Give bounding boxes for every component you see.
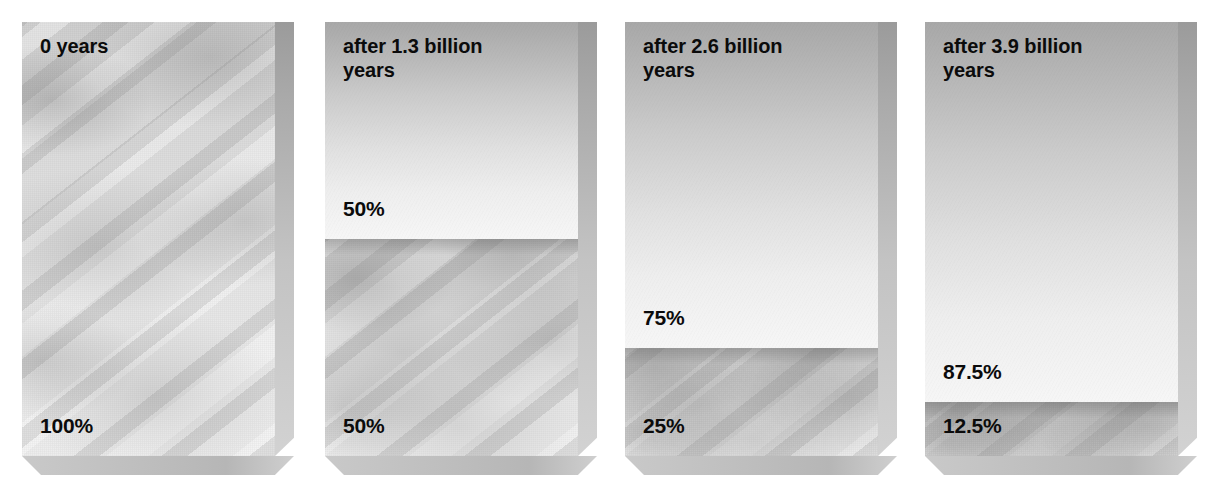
time-label: after 3.9 billion years	[943, 34, 1158, 83]
decay-block-1: 100%0 years	[22, 22, 275, 456]
block-bottom-face	[22, 456, 294, 475]
time-label: after 1.3 billion years	[343, 34, 558, 83]
percent-label: 50%	[343, 414, 384, 438]
decay-figure-stage: 100%0 years50%50%after 1.3 billion years…	[0, 0, 1217, 493]
decay-block-3: 75%25%after 2.6 billion years	[625, 22, 878, 456]
percent-label: 87.5%	[943, 360, 1002, 384]
mottled-texture-fill	[22, 22, 275, 456]
percent-label: 75%	[643, 306, 684, 330]
block-side-face	[275, 22, 294, 456]
percent-label: 12.5%	[943, 414, 1002, 438]
block-bottom-face	[325, 456, 597, 475]
block-front-face: 50%50%	[325, 22, 578, 456]
percent-label: 25%	[643, 414, 684, 438]
segment-parent-isotope	[22, 22, 275, 456]
block-front-face: 75%25%	[625, 22, 878, 456]
block-side-face	[878, 22, 897, 456]
percent-label: 50%	[343, 197, 384, 221]
decay-block-4: 87.5%12.5%after 3.9 billion years	[925, 22, 1178, 456]
block-side-face	[578, 22, 597, 456]
time-label: 0 years	[40, 34, 255, 58]
block-bottom-face	[925, 456, 1197, 475]
block-bottom-face	[625, 456, 897, 475]
block-front-face: 87.5%12.5%	[925, 22, 1178, 456]
decay-block-2: 50%50%after 1.3 billion years	[325, 22, 578, 456]
percent-label: 100%	[40, 414, 93, 438]
block-side-face	[1178, 22, 1197, 456]
block-front-face: 100%	[22, 22, 275, 456]
mottled-texture-fill	[625, 348, 878, 457]
time-label: after 2.6 billion years	[643, 34, 858, 83]
segment-parent-isotope	[625, 348, 878, 457]
